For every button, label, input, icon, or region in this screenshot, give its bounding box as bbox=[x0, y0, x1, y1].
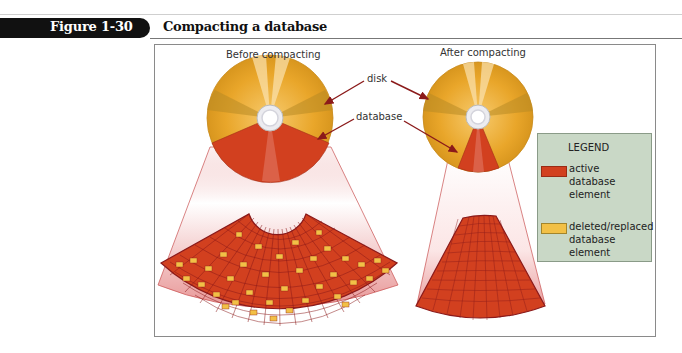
legend-label-deleted: deleted/replaced database element bbox=[569, 220, 653, 259]
disk-after bbox=[423, 62, 533, 172]
disk-arrow-after bbox=[391, 81, 428, 99]
disk-before bbox=[207, 55, 333, 183]
legend-box: LEGEND active database element deleted/r… bbox=[537, 133, 652, 262]
database-callout-label: database bbox=[356, 111, 402, 122]
legend-title: LEGEND bbox=[568, 142, 609, 153]
disk-callout-label: disk bbox=[367, 73, 387, 84]
legend-swatch-deleted bbox=[541, 223, 567, 234]
after-caption: After compacting bbox=[440, 47, 526, 58]
before-caption: Before compacting bbox=[226, 49, 321, 60]
legend-label-active: active database element bbox=[569, 162, 653, 201]
legend-swatch-active bbox=[541, 166, 567, 177]
disk-arrow-before bbox=[325, 81, 364, 104]
